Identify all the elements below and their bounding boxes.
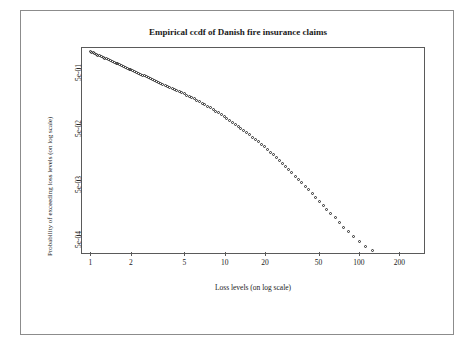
data-point [311,192,314,195]
data-point [352,235,355,238]
y-axis-tick-label: 5e-01 [74,64,83,81]
data-point [329,212,332,215]
data-point [294,175,297,178]
data-point [347,230,350,233]
x-axis-tick [399,252,400,256]
x-axis-tick [131,252,132,256]
data-point [364,245,367,248]
x-axis-tick [265,252,266,256]
figure-frame: Empirical ccdf of Danish fire insurance … [20,10,454,335]
data-point [338,221,341,224]
data-point [290,171,293,174]
data-point [371,249,374,252]
x-axis-tick [359,252,360,256]
y-axis-title: Probability of exceeding loss levels (on… [46,117,54,256]
page-canvas: Empirical ccdf of Danish fire insurance … [0,0,475,349]
data-point [342,226,345,229]
chart-title: Empirical ccdf of Danish fire insurance … [21,27,455,37]
x-axis-tick [225,252,226,256]
x-axis-title: Loss levels (on log scale) [81,283,425,292]
x-axis-tick-label: 100 [344,258,374,267]
y-axis-tick-label: 5e-02 [74,120,83,137]
y-axis-tick-label: 5e-03 [74,175,83,192]
data-point [314,196,317,199]
data-point [307,188,310,191]
data-point [300,181,303,184]
data-point [325,208,328,211]
y-axis-tick-label: 5e-04 [74,231,83,248]
x-axis-tick [184,252,185,256]
x-axis-tick-label: 20 [250,258,280,267]
plot-area[interactable] [81,47,425,254]
x-axis-tick [319,252,320,256]
x-axis-tick-label: 50 [304,258,334,267]
x-axis-tick [90,252,91,256]
data-point [358,240,361,243]
data-point [266,148,269,151]
x-axis-tick-label: 5 [169,258,199,267]
x-axis-tick-label: 2 [116,258,146,267]
x-axis-tick-label: 1 [75,258,105,267]
x-axis-tick-label: 200 [384,258,414,267]
data-point [304,185,307,188]
x-axis-tick-label: 10 [210,258,240,267]
data-point [322,204,325,207]
data-point [318,200,321,203]
page-top-text-fragment [20,0,320,9]
data-point [334,216,337,219]
